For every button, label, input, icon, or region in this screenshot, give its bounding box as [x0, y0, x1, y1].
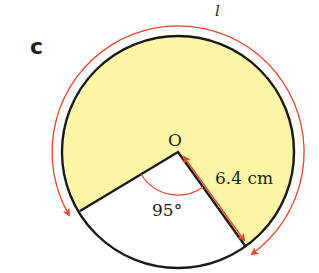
- angle-arc: [141, 174, 203, 195]
- part-label: c: [30, 34, 43, 59]
- center-label: O: [168, 130, 182, 150]
- diagram-canvas: [0, 0, 319, 273]
- sector-diagram: c l O 6.4 cm 95°: [0, 0, 319, 273]
- arc-length-label: l: [215, 2, 220, 20]
- angle-label: 95°: [152, 200, 182, 220]
- radius-label: 6.4 cm: [215, 168, 273, 188]
